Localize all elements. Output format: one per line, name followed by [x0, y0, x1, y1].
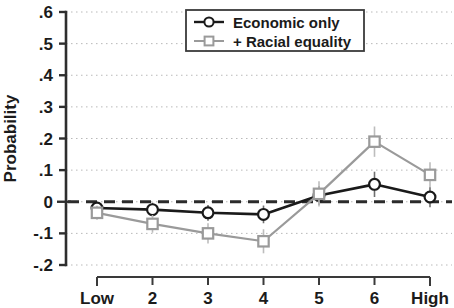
y-tick-label: .3: [39, 98, 53, 117]
data-point-square: [147, 219, 157, 229]
series-racial-equality: [92, 126, 435, 253]
chart-canvas: .6.5.4.3.2.10-.1-.2 Low23456High Probabi…: [0, 0, 454, 308]
y-tick-label: .5: [39, 35, 53, 54]
y-tick-label: -.1: [33, 224, 53, 243]
x-tick-label: 5: [314, 289, 323, 308]
x-tick-label: 2: [148, 289, 157, 308]
data-point-circle: [203, 207, 214, 218]
data-point-square: [203, 228, 213, 238]
data-point-circle: [369, 179, 380, 190]
x-tick-label: 3: [203, 289, 212, 308]
legend-marker-circle: [204, 17, 213, 26]
probability-line-chart: .6.5.4.3.2.10-.1-.2 Low23456High Probabi…: [0, 0, 454, 308]
y-tick-label: .6: [39, 3, 53, 22]
x-tick-label: Low: [80, 289, 115, 308]
data-point-square: [92, 208, 102, 218]
legend-label: Economic only: [233, 14, 340, 31]
data-point-circle: [147, 204, 158, 215]
legend-marker-square: [205, 37, 214, 46]
y-tick-label: -.2: [33, 256, 53, 275]
y-axis-label: Probability: [1, 94, 20, 182]
data-series-group: [92, 126, 436, 253]
data-point-circle: [258, 209, 269, 220]
x-tick-label: High: [411, 289, 449, 308]
legend-label: + Racial equality: [233, 33, 352, 50]
data-point-square: [258, 236, 268, 246]
y-tick-label: .4: [39, 66, 54, 85]
x-axis-ticks: Low23456High: [80, 277, 449, 308]
data-point-circle: [425, 192, 436, 203]
data-point-square: [425, 170, 435, 180]
y-tick-label: 0: [44, 193, 53, 212]
data-point-square: [369, 136, 379, 146]
series-economic-only: [92, 172, 436, 224]
y-tick-label: .2: [39, 130, 53, 149]
x-tick-label: 6: [370, 289, 379, 308]
y-tick-label: .1: [39, 161, 53, 180]
y-axis-ticks: .6.5.4.3.2.10-.1-.2: [33, 3, 71, 275]
y-axis-title: Probability: [1, 94, 20, 182]
data-point-square: [314, 189, 324, 199]
chart-legend: Economic only+ Racial equality: [186, 10, 364, 51]
x-tick-label: 4: [259, 289, 269, 308]
